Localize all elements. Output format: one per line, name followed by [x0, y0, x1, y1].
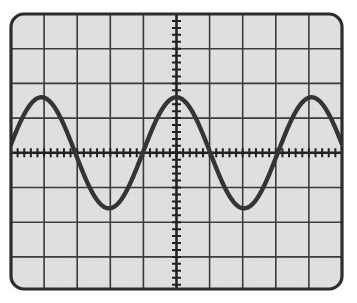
oscilloscope-screenshot [0, 0, 357, 303]
scope-screen [9, 12, 344, 291]
waveform-plot [9, 12, 344, 291]
